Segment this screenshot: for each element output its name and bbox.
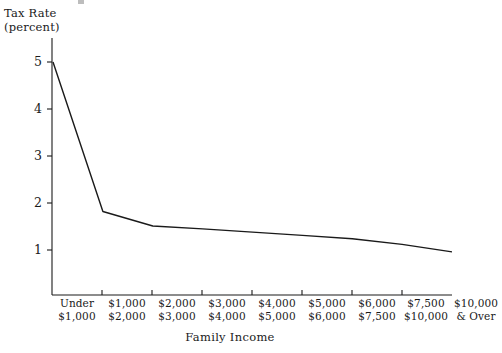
y-tick-labels: 5 4 3 2 1 <box>34 54 42 257</box>
y-tick-label-1: 1 <box>34 242 42 257</box>
y-tick-label-2: 2 <box>34 195 42 210</box>
x-tick-label-8-line2: & Over <box>441 310 502 323</box>
axis-lines <box>52 38 452 295</box>
y-axis-ticks <box>47 62 52 250</box>
data-line-tax-rate <box>53 62 452 252</box>
x-tick-label-8-line1: $10,000 <box>441 297 502 310</box>
y-tick-label-5: 5 <box>34 54 42 69</box>
x-axis-ticks <box>102 290 402 295</box>
y-tick-label-4: 4 <box>34 101 42 116</box>
x-tick-labels: Under $1,000 $1,000 $2,000 $2,000 $3,000… <box>0 297 460 331</box>
x-axis-title: Family Income <box>0 330 460 344</box>
x-tick-label-8: $10,000 & Over <box>441 297 502 323</box>
y-tick-label-3: 3 <box>34 148 42 163</box>
